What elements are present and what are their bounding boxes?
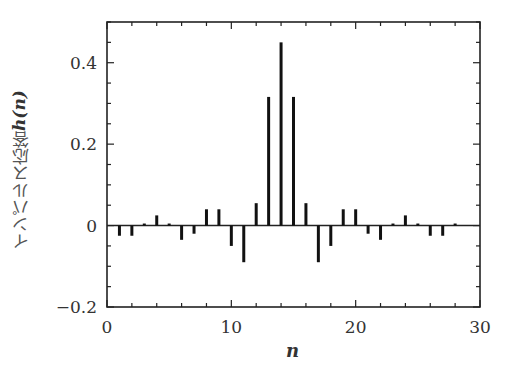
y-tick-label: 0.4 [70,53,97,73]
y-tick-label: 0.2 [70,134,97,154]
x-axis-label: n [286,340,299,361]
stem-chart: 0102030−0.200.20.4 [0,0,511,379]
stem-series [119,42,455,262]
x-tick-label: 10 [221,317,243,337]
y-tick-label: 0 [86,216,97,236]
y-axis-label-text: インパルス応答 [9,131,34,250]
y-axis-label-symbol: h(n) [9,90,29,131]
y-tick-label: −0.2 [56,297,97,317]
x-tick-label: 30 [469,317,491,337]
tick-labels: 0102030−0.200.20.4 [56,53,491,337]
x-tick-label: 0 [102,317,113,337]
y-axis-label: インパルス応答 h(n) [4,60,38,280]
x-tick-label: 20 [345,317,367,337]
